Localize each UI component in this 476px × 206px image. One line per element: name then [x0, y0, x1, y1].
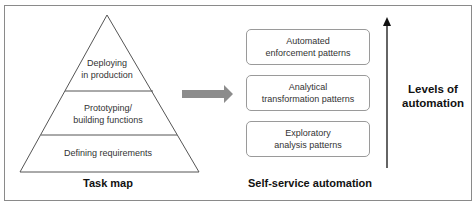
- self-service-automation-caption: Self-service automation: [245, 177, 375, 189]
- pattern-box-automated: Automated enforcement patterns: [246, 29, 370, 65]
- levels-label-line2: automation: [400, 96, 466, 110]
- levels-of-automation-label: Levels of automation: [400, 82, 466, 110]
- pattern-box-analytical-line1: Analytical: [289, 81, 328, 93]
- pyramid-level-bottom: Defining requirements: [45, 147, 171, 159]
- pattern-box-analytical-line2: transformation patterns: [262, 93, 355, 105]
- pattern-box-automated-line1: Automated: [286, 35, 330, 47]
- pyramid-level-top: Deploying in production: [62, 57, 152, 81]
- pattern-box-exploratory: Exploratory analysis patterns: [246, 121, 370, 157]
- pattern-box-analytical: Analytical transformation patterns: [246, 75, 370, 111]
- pyramid-level-top-line1: Deploying: [62, 57, 152, 69]
- pyramid-level-middle-line1: Prototyping/: [55, 102, 161, 114]
- transition-arrow-icon: [182, 85, 233, 103]
- pyramid-level-middle-line2: building functions: [55, 114, 161, 126]
- pattern-box-exploratory-line2: analysis patterns: [274, 139, 342, 151]
- pyramid-level-bottom-line1: Defining requirements: [45, 147, 171, 159]
- pattern-box-exploratory-line1: Exploratory: [285, 127, 331, 139]
- levels-arrow-head-icon: [383, 17, 391, 26]
- pyramid-level-top-line2: in production: [62, 69, 152, 81]
- levels-label-line1: Levels of: [400, 82, 466, 96]
- task-map-caption: Task map: [60, 177, 156, 189]
- pyramid-level-middle: Prototyping/ building functions: [55, 102, 161, 126]
- pattern-box-automated-line2: enforcement patterns: [265, 47, 350, 59]
